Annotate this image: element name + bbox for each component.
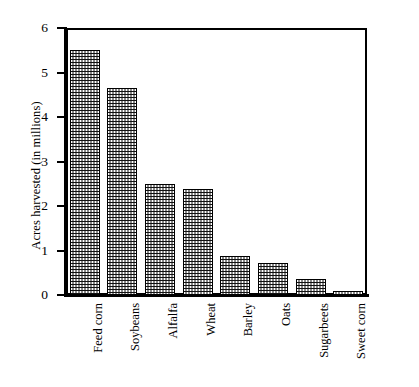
x-axis-tick-label: Feed corn [91, 303, 105, 387]
x-axis-tick-label: Barley [241, 303, 255, 387]
y-axis-tick [57, 205, 65, 207]
y-axis-tick-label: 1 [8, 244, 48, 258]
y-axis-tick [57, 250, 65, 252]
x-axis-tick-label: Soybeans [128, 303, 142, 387]
x-axis-tick-label: Oats [279, 303, 293, 387]
bars-group [66, 28, 367, 295]
y-axis-tick [57, 294, 65, 296]
bar [220, 256, 250, 295]
bar [296, 279, 326, 295]
bar [333, 291, 363, 295]
bar [258, 263, 288, 295]
y-axis-tick-label: 5 [8, 66, 48, 80]
y-axis-tick-label: 2 [8, 199, 48, 213]
y-axis-tick [57, 116, 65, 118]
bar [183, 189, 213, 295]
y-axis-tick-label: 4 [8, 110, 48, 124]
bar [145, 184, 175, 295]
y-axis-tick-label: 0 [8, 288, 48, 302]
y-axis-tick-label: 3 [8, 155, 48, 169]
x-axis-tick-label: Wheat [204, 303, 218, 387]
x-axis-tick-label: Alfalfa [166, 303, 180, 387]
y-axis-tick [57, 161, 65, 163]
y-axis-tick [57, 27, 65, 29]
x-axis-tick-label: Sugarbeets [317, 303, 331, 387]
y-axis-tick [57, 72, 65, 74]
bar-chart: Acres harvested (in millions) 0123456 Fe… [0, 0, 419, 387]
y-axis-tick-label: 6 [8, 21, 48, 35]
bar [107, 88, 137, 295]
bar [70, 50, 100, 295]
y-axis-title: Acres harvested (in millions) [29, 56, 44, 296]
x-axis-tick-label: Sweet corn [354, 303, 368, 387]
